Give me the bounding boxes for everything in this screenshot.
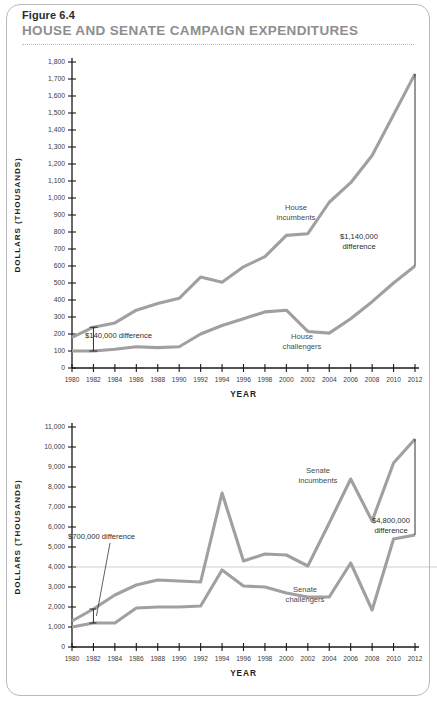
figure-number: Figure 6.4: [22, 9, 75, 21]
svg-text:9,000: 9,000: [48, 463, 65, 470]
house-chart: 01002003004005006007008009001,0001,1001,…: [0, 50, 437, 400]
house-y-axis-title: DOLLARS (THOUSANDS): [13, 157, 22, 272]
svg-text:1996: 1996: [236, 376, 251, 383]
svg-text:10,000: 10,000: [44, 443, 65, 450]
svg-text:2008: 2008: [365, 376, 380, 383]
svg-text:0: 0: [61, 643, 65, 650]
svg-text:1,300: 1,300: [48, 143, 65, 150]
house-incumbents-label-l2: incumbents: [277, 213, 316, 222]
svg-text:1988: 1988: [150, 655, 165, 662]
senate-incumbents-label-l2: incumbents: [299, 476, 338, 485]
senate-challengers-label-l1: Senate: [293, 585, 317, 594]
senate-early-difference-annotation: $700,000 difference: [68, 532, 135, 541]
svg-text:1980: 1980: [65, 655, 80, 662]
house-difference-annotation-l2: difference: [342, 242, 375, 251]
senate-y-axis-title: DOLLARS (THOUSANDS): [13, 479, 22, 594]
svg-text:1990: 1990: [172, 655, 187, 662]
svg-text:2004: 2004: [322, 376, 337, 383]
svg-text:1986: 1986: [129, 376, 144, 383]
svg-text:2006: 2006: [343, 655, 358, 662]
senate-incumbents-label-l1: Senate: [306, 466, 330, 475]
svg-text:2000: 2000: [279, 655, 294, 662]
svg-text:6,000: 6,000: [48, 523, 65, 530]
svg-text:500: 500: [54, 279, 66, 286]
svg-text:1,600: 1,600: [48, 92, 65, 99]
senate-challengers-label-l2: challengers: [286, 595, 325, 604]
house-incumbents-label-l1: House: [285, 203, 307, 212]
svg-text:100: 100: [54, 347, 66, 354]
senate-chart: 01,0002,0003,0004,0005,0006,0007,0008,00…: [0, 415, 437, 703]
svg-text:1996: 1996: [236, 655, 251, 662]
svg-text:1984: 1984: [108, 655, 123, 662]
svg-text:2000: 2000: [279, 376, 294, 383]
svg-text:1982: 1982: [86, 655, 101, 662]
svg-text:1994: 1994: [215, 655, 230, 662]
svg-text:900: 900: [54, 211, 66, 218]
house-challengers-label-l2: challengers: [283, 342, 322, 351]
title-divider: [22, 44, 414, 45]
svg-text:11,000: 11,000: [45, 423, 66, 430]
figure-page: Figure 6.4 HOUSE AND SENATE CAMPAIGN EXP…: [0, 0, 437, 703]
svg-text:1986: 1986: [129, 655, 144, 662]
svg-text:1,500: 1,500: [48, 109, 65, 116]
svg-text:4,000: 4,000: [48, 563, 65, 570]
house-difference-annotation-l1: $1,140,000: [340, 232, 378, 241]
senate-difference-annotation-l1: $4,800,000: [372, 516, 410, 525]
svg-text:600: 600: [54, 262, 66, 269]
svg-text:1990: 1990: [172, 376, 187, 383]
house-challengers-label-l1: House: [291, 332, 313, 341]
svg-text:2012: 2012: [408, 655, 423, 662]
svg-text:200: 200: [54, 330, 66, 337]
svg-text:300: 300: [54, 313, 66, 320]
svg-text:2010: 2010: [386, 655, 401, 662]
svg-text:1,200: 1,200: [48, 160, 65, 167]
svg-text:3,000: 3,000: [48, 583, 65, 590]
house-series: [72, 74, 415, 351]
svg-text:1980: 1980: [65, 376, 80, 383]
svg-text:2002: 2002: [300, 655, 315, 662]
svg-text:700: 700: [54, 245, 66, 252]
svg-text:1994: 1994: [215, 376, 230, 383]
senate-leader-line: [96, 543, 110, 616]
house-early-difference-annotation: $140,000 difference: [85, 331, 152, 340]
svg-text:2002: 2002: [300, 376, 315, 383]
senate-x-axis: 1980198219841986198819901992199419961998…: [65, 643, 423, 662]
svg-text:1,000: 1,000: [48, 623, 65, 630]
senate-challengers-line: [72, 535, 415, 627]
svg-text:1,100: 1,100: [48, 177, 65, 184]
svg-text:1,700: 1,700: [48, 75, 65, 82]
house-x-axis: 1980198219841986198819901992199419961998…: [65, 364, 423, 383]
house-chart-svg: 01002003004005006007008009001,0001,1001,…: [0, 50, 437, 400]
svg-text:1998: 1998: [258, 376, 273, 383]
svg-text:400: 400: [54, 296, 66, 303]
svg-text:1992: 1992: [193, 376, 208, 383]
figure-title: HOUSE AND SENATE CAMPAIGN EXPENDITURES: [22, 23, 358, 38]
svg-text:2008: 2008: [365, 655, 380, 662]
svg-text:1,000: 1,000: [48, 194, 65, 201]
svg-text:2006: 2006: [343, 376, 358, 383]
svg-text:1984: 1984: [108, 376, 123, 383]
svg-text:1998: 1998: [258, 655, 273, 662]
svg-text:2,000: 2,000: [48, 603, 65, 610]
svg-text:0: 0: [61, 364, 65, 371]
svg-text:7,000: 7,000: [48, 503, 65, 510]
house-y-axis: 01002003004005006007008009001,0001,1001,…: [48, 58, 76, 371]
svg-text:2004: 2004: [322, 655, 337, 662]
svg-text:8,000: 8,000: [48, 483, 65, 490]
house-x-axis-title: YEAR: [230, 389, 257, 399]
svg-text:2010: 2010: [386, 376, 401, 383]
senate-x-axis-title: YEAR: [230, 668, 257, 678]
senate-difference-annotation-l2: difference: [374, 526, 407, 535]
svg-text:1,800: 1,800: [48, 58, 65, 65]
house-incumbents-line: [72, 74, 415, 338]
svg-text:1988: 1988: [150, 376, 165, 383]
svg-text:2012: 2012: [408, 376, 423, 383]
svg-text:800: 800: [54, 228, 66, 235]
senate-chart-svg: 01,0002,0003,0004,0005,0006,0007,0008,00…: [0, 415, 437, 703]
svg-text:1,400: 1,400: [48, 126, 65, 133]
svg-text:1982: 1982: [86, 376, 101, 383]
svg-text:1992: 1992: [193, 655, 208, 662]
svg-text:5,000: 5,000: [48, 543, 65, 550]
